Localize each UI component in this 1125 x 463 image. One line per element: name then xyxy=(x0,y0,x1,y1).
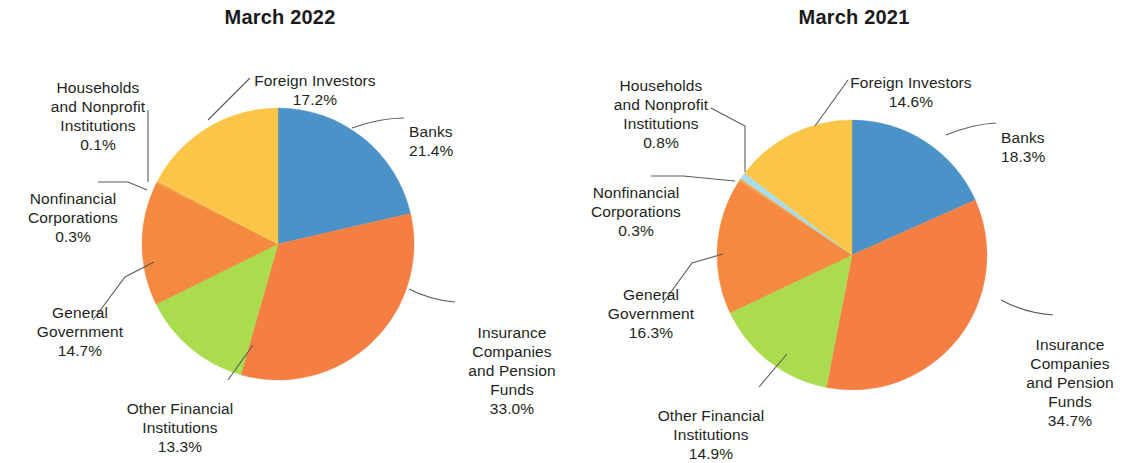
label-banks-left: Banks 21.4% xyxy=(409,104,529,180)
label-banks-right: Banks 18.3% xyxy=(1001,110,1121,186)
label-general-government-right: General Government 16.3% xyxy=(577,267,725,362)
label-text: Other Financial Institutions xyxy=(658,407,765,443)
label-text: Insurance Companies and Pension Funds xyxy=(468,324,555,398)
label-value: 0.3% xyxy=(563,222,709,241)
label-text: General Government xyxy=(608,286,694,322)
label-other-financial-left: Other Financial Institutions 13.3% xyxy=(95,381,265,463)
label-value: 0.8% xyxy=(585,134,737,153)
label-text: Foreign Investors xyxy=(254,72,375,89)
label-text: Households and Nonprofit Institutions xyxy=(51,79,145,134)
label-value: 14.7% xyxy=(6,342,154,361)
label-value: 13.3% xyxy=(95,438,265,457)
label-nonfinancial-right: Nonfinancial Corporations 0.3% xyxy=(563,165,709,260)
label-value: 33.0% xyxy=(459,400,565,419)
label-other-financial-right: Other Financial Institutions 14.9% xyxy=(625,388,797,463)
label-text: Foreign Investors xyxy=(850,74,971,91)
label-value: 16.3% xyxy=(577,324,725,343)
label-text: Other Financial Institutions xyxy=(127,400,234,436)
label-value: 21.4% xyxy=(409,142,529,161)
label-text: Banks xyxy=(409,123,453,140)
label-value: 14.9% xyxy=(625,445,797,463)
label-nonfinancial-left: Nonfinancial Corporations 0.3% xyxy=(0,171,146,266)
label-value: 0.3% xyxy=(0,228,146,247)
label-value: 34.7% xyxy=(1015,412,1125,431)
label-foreign-investors-left: Foreign Investors 17.2% xyxy=(240,53,390,129)
label-text: General Government xyxy=(37,304,123,340)
pie-chart-march-2021: March 2021 Foreign Investors 14.6% Banks… xyxy=(563,0,1125,449)
label-text: Households and Nonprofit Institutions xyxy=(614,77,708,132)
label-value: 0.1% xyxy=(22,136,174,155)
label-text: Nonfinancial Corporations xyxy=(591,184,681,220)
label-value: 18.3% xyxy=(1001,148,1121,167)
label-households-right: Households and Nonprofit Institutions 0.… xyxy=(585,58,737,171)
label-foreign-investors-right: Foreign Investors 14.6% xyxy=(835,55,987,131)
label-insurance-right: Insurance Companies and Pension Funds 34… xyxy=(1015,317,1125,449)
label-text: Insurance Companies and Pension Funds xyxy=(1026,336,1113,410)
label-value: 14.6% xyxy=(835,93,987,112)
pie-slices-left xyxy=(142,108,414,380)
leader-insurance xyxy=(1001,300,1053,315)
leader-insurance xyxy=(409,289,455,302)
label-value: 17.2% xyxy=(240,91,390,110)
label-insurance-left: Insurance Companies and Pension Funds 33… xyxy=(459,305,565,437)
pie-chart-march-2022: March 2022 Foreign Investors 17.2% Banks… xyxy=(0,0,562,449)
label-text: Banks xyxy=(1001,129,1045,146)
label-general-government-left: General Government 14.7% xyxy=(6,285,154,380)
label-text: Nonfinancial Corporations xyxy=(28,190,118,226)
label-households-left: Households and Nonprofit Institutions 0.… xyxy=(22,60,174,173)
pie-slices-right xyxy=(717,120,987,390)
